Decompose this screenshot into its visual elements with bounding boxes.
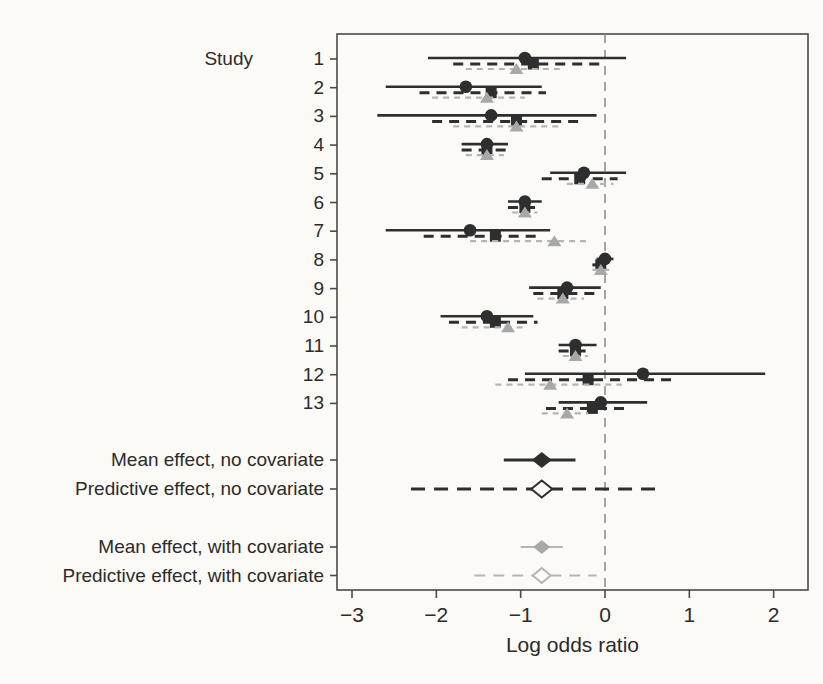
x-tick-label-0: −3 (340, 603, 364, 626)
study-2-observed-estimate-marker (460, 80, 473, 93)
study-5-shrunken-estimate-no-covariate-marker (574, 173, 585, 184)
study-label-12: 12 (303, 364, 324, 385)
study-label-2: 2 (313, 77, 324, 98)
summary-label-0: Mean effect, no covariate (111, 449, 324, 470)
summary-label-1: Predictive effect, no covariate (75, 478, 324, 499)
x-axis-title: Log odds ratio (506, 633, 639, 656)
scanned-book-figure: −3−2−1012Log odds ratioStudy123456789101… (0, 0, 823, 684)
study-7-shrunken-estimate-no-covariate-marker (490, 231, 501, 242)
study-1-shrunken-estimate-no-covariate-marker (528, 59, 539, 70)
study-label-10: 10 (303, 306, 324, 327)
study-label-4: 4 (313, 134, 324, 155)
study-label-6: 6 (313, 192, 324, 213)
x-tick-label-2: −1 (509, 603, 533, 626)
x-tick-label-4: 1 (683, 603, 695, 626)
summary-label-2: Mean effect, with covariate (98, 536, 324, 557)
study-column-header: Study (204, 48, 253, 69)
study-label-5: 5 (313, 163, 324, 184)
study-3-observed-estimate-marker (485, 109, 498, 122)
x-tick-label-3: 0 (599, 603, 611, 626)
x-tick-label-5: 2 (768, 603, 780, 626)
study-label-11: 11 (304, 335, 324, 356)
x-tick-label-1: −2 (424, 603, 448, 626)
study-label-8: 8 (313, 249, 324, 270)
study-label-1: 1 (313, 48, 324, 69)
study-13-shrunken-estimate-no-covariate-marker (587, 403, 598, 414)
study-label-9: 9 (313, 278, 324, 299)
study-label-13: 13 (303, 392, 324, 413)
study-12-observed-estimate-marker (637, 367, 650, 380)
forest-plot-figure: −3−2−1012Log odds ratioStudy123456789101… (0, 0, 823, 684)
study-10-shrunken-estimate-no-covariate-marker (490, 317, 501, 328)
study-label-7: 7 (313, 220, 324, 241)
study-12-shrunken-estimate-no-covariate-marker (583, 374, 594, 385)
study-7-observed-estimate-marker (464, 224, 477, 237)
study-label-3: 3 (313, 105, 324, 126)
summary-label-3: Predictive effect, with covariate (62, 565, 324, 586)
